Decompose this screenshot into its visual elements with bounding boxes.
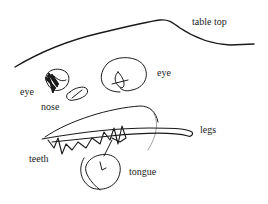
label-eye-left: eye [20,87,34,97]
label-nose: nose [41,102,59,112]
label-table-top: table top [192,17,227,27]
label-teeth: teeth [29,154,48,164]
right-eye-pupil [112,72,128,88]
label-eye-right: eye [157,68,171,78]
tongue-stroke [81,154,121,190]
teeth-stroke [48,126,126,154]
nose-stroke [67,87,88,100]
body-arc-stroke [45,106,158,137]
sketch-canvas: table top eye eye nose legs teeth tongue [0,0,268,204]
label-tongue: tongue [129,167,156,177]
label-legs: legs [200,125,216,135]
